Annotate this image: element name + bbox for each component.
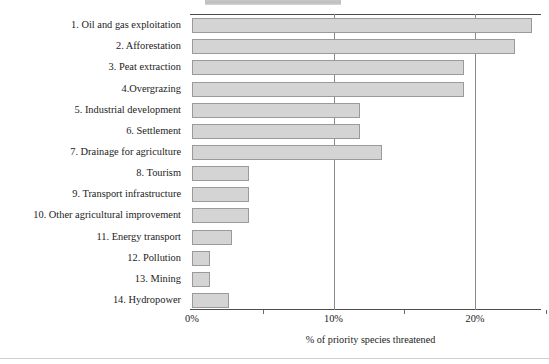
gridline-10pct bbox=[334, 14, 335, 310]
bar bbox=[192, 272, 210, 287]
category-label-column: 1. Oil and gas exploitation2. Afforestat… bbox=[0, 14, 185, 310]
category-label: 1. Oil and gas exploitation bbox=[0, 19, 181, 31]
category-label: 5. Industrial development bbox=[0, 104, 181, 116]
plot-top-border bbox=[190, 14, 541, 15]
category-label: 2. Afforestation bbox=[0, 40, 181, 52]
gridline-20pct bbox=[475, 14, 476, 310]
bar bbox=[192, 145, 382, 160]
bar bbox=[192, 187, 249, 202]
category-label: 11. Energy transport bbox=[0, 231, 181, 243]
bar bbox=[192, 251, 210, 266]
bar-chart: 1. Oil and gas exploitation2. Afforestat… bbox=[0, 0, 549, 364]
page-bottom-divider bbox=[0, 358, 549, 359]
category-label: 14. Hydropower bbox=[0, 294, 181, 306]
x-tick-labels: 0%10%20% bbox=[192, 313, 549, 329]
bar bbox=[192, 60, 464, 75]
bar bbox=[192, 293, 229, 308]
bar bbox=[192, 18, 532, 33]
x-axis-line bbox=[190, 309, 541, 310]
bar bbox=[192, 208, 249, 223]
bar bbox=[192, 166, 249, 181]
category-label: 7. Drainage for agriculture bbox=[0, 146, 181, 158]
bar bbox=[192, 82, 464, 97]
category-label: 9. Transport infrastructure bbox=[0, 188, 181, 200]
category-label: 8. Tourism bbox=[0, 167, 181, 179]
category-label: 10. Other agricultural improvement bbox=[0, 209, 181, 221]
category-label: 3. Peat extraction bbox=[0, 61, 181, 73]
x-tick-label: 0% bbox=[185, 313, 199, 324]
category-label: 12. Pollution bbox=[0, 252, 181, 264]
x-tick-label: 20% bbox=[465, 313, 484, 324]
bar bbox=[192, 230, 232, 245]
plot-area bbox=[192, 14, 549, 310]
category-label: 6. Settlement bbox=[0, 125, 181, 137]
category-label: 13. Mining bbox=[0, 273, 181, 285]
bar bbox=[192, 124, 360, 139]
category-label: 4.Overgrazing bbox=[0, 83, 181, 95]
x-tick-label: 10% bbox=[324, 313, 343, 324]
x-axis-title: % of priority species threatened bbox=[192, 334, 549, 345]
bar bbox=[192, 39, 515, 54]
bar bbox=[192, 103, 360, 118]
